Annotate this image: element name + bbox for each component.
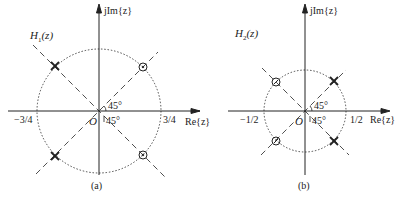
pole-marker-icon [51, 152, 59, 160]
angle-upper-label: 45° [314, 101, 328, 111]
pole-zero-diagrams [0, 0, 397, 207]
real-axis-arrow-icon [191, 109, 200, 114]
zero-marker-icon [272, 78, 280, 86]
imag-axis-label: jIm{z} [310, 6, 338, 16]
real-axis-arrow-icon [381, 109, 390, 114]
neg-radius-label: −3/4 [14, 115, 32, 125]
caption-a: (a) [91, 181, 102, 191]
angle-arc-upper [310, 106, 312, 111]
origin-label: O [89, 116, 97, 127]
zero-marker-icon [272, 137, 280, 145]
transfer-function-title: H2(z) [235, 28, 258, 42]
angle-lower-label: 45° [312, 116, 326, 126]
zero-marker-icon [139, 63, 147, 71]
angle-upper-label: 45° [108, 101, 122, 111]
panel-b [191, 4, 390, 175]
angle-arc-upper [104, 106, 106, 111]
zero-marker-icon [139, 151, 147, 159]
imag-axis-arrow-icon [303, 4, 308, 13]
pos-radius-label: 3/4 [163, 115, 176, 125]
transfer-function-title: H1(z) [30, 30, 53, 44]
angle-lower-label: 45° [106, 116, 120, 126]
pole-marker-icon [330, 137, 338, 145]
pole-marker-icon [51, 62, 59, 70]
real-axis-label: Re{z} [370, 115, 395, 125]
pole-marker-icon [330, 77, 338, 85]
imag-axis-label: jIm{z} [104, 6, 132, 16]
pos-radius-label: 1/2 [350, 115, 363, 125]
imag-axis-arrow-icon [97, 4, 102, 13]
origin-label: O [295, 116, 303, 127]
caption-b: (b) [298, 181, 310, 191]
neg-radius-label: −1/2 [240, 115, 258, 125]
real-axis-label: Re{z} [185, 117, 210, 127]
